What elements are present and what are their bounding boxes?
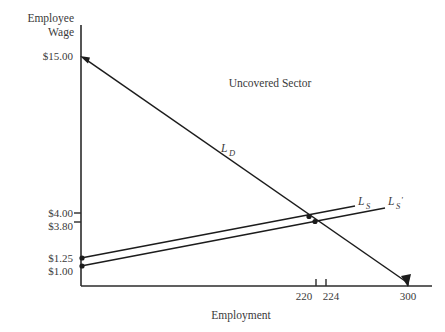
curve-label-demand: L D [220,142,236,158]
intersection-dot-224 [312,219,317,224]
y-tick-label-4-00: $4.00 [48,207,73,219]
uncovered-sector-chart: Employee Wage $15.00 $4.00 $3.80 $1.25 $… [0,0,445,332]
y-tick-label-3-80: $3.80 [48,220,73,232]
curve-label-supply-sub: S [366,201,371,211]
curve-label-demand-main: L [220,142,227,154]
chart-svg: Employee Wage $15.00 $4.00 $3.80 $1.25 $… [0,0,445,332]
x-axis-title: Employment [211,309,271,322]
demand-arrow-end [401,274,411,287]
supply-origin-dot-1-00 [79,263,84,268]
x-tick-label-220: 220 [296,290,313,302]
curve-label-supply-shifted-prime: ' [401,195,403,205]
curve-label-supply-shifted: L S ' [387,195,403,211]
plot-title: Uncovered Sector [229,77,312,89]
curve-label-demand-sub: D [228,148,236,158]
x-tick-label-224: 224 [323,290,340,302]
y-tick-label-1-25: $1.25 [48,252,73,264]
y-tick-label-1-00: $1.00 [48,265,73,277]
curve-label-supply: L S [357,195,371,211]
x-tick-label-300: 300 [400,290,417,302]
curve-labor-supply [81,206,355,258]
intersection-dot-220 [306,214,311,219]
curve-label-supply-shifted-main: L [387,195,394,207]
y-axis-title-line2: Wage [48,26,74,39]
curve-labor-demand [85,59,408,283]
y-tick-label-15-00: $15.00 [43,50,74,62]
curve-label-supply-main: L [357,195,364,207]
curve-labor-supply-shifted [81,208,385,266]
supply-origin-dot-1-25 [79,255,84,260]
y-axis-title-line1: Employee [27,12,74,25]
